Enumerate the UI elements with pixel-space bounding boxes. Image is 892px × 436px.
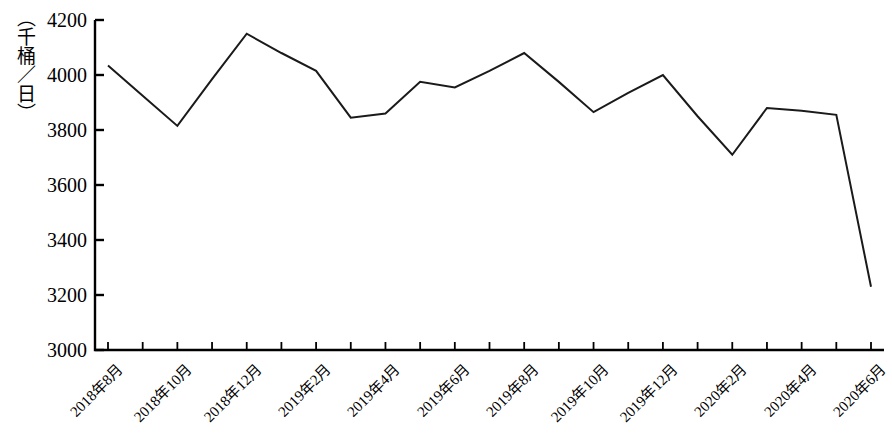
plot-area xyxy=(0,0,892,436)
y-axis-ticks xyxy=(95,20,104,350)
axis-lines xyxy=(95,20,884,350)
line-chart: （千桶／日） 3000320034003600380040004200 2018… xyxy=(0,0,892,436)
data-series-line xyxy=(108,34,871,287)
axis-path xyxy=(95,20,884,350)
